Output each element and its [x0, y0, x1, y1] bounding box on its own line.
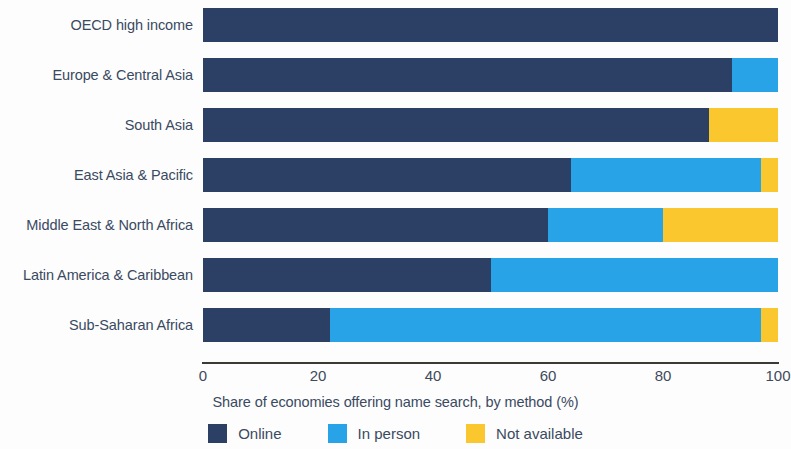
legend-item: In person	[328, 424, 421, 443]
category-axis-labels: OECD high incomeEurope & Central AsiaSou…	[0, 0, 193, 364]
bar-segment-not-available	[709, 108, 778, 142]
x-tick-label: 0	[199, 368, 207, 383]
bar-segment-in-person	[330, 308, 761, 342]
bar-segment-in-person	[571, 158, 761, 192]
legend-swatch	[208, 424, 227, 443]
x-axis-line	[202, 362, 779, 364]
bar-segment-online	[203, 8, 778, 42]
x-tick-label: 40	[425, 368, 442, 383]
x-tick-label: 60	[540, 368, 557, 383]
bar-row	[203, 8, 778, 42]
bar-segment-not-available	[761, 308, 778, 342]
bar-segment-in-person	[491, 258, 779, 292]
category-label: Latin America & Caribbean	[0, 268, 193, 283]
category-label: OECD high income	[0, 18, 193, 33]
x-tick-label: 100	[765, 368, 790, 383]
bar-row	[203, 58, 778, 92]
bar-row	[203, 108, 778, 142]
bar-segment-not-available	[761, 158, 778, 192]
bar-segment-in-person	[732, 58, 778, 92]
category-label: Sub-Saharan Africa	[0, 318, 193, 333]
chart-figure: OECD high incomeEurope & Central AsiaSou…	[0, 0, 791, 449]
category-label: Middle East & North Africa	[0, 218, 193, 233]
bar-row	[203, 208, 778, 242]
bar-segment-online	[203, 58, 732, 92]
plot-area	[203, 0, 778, 364]
bar-segment-online	[203, 208, 548, 242]
bar-segment-not-available	[663, 208, 778, 242]
category-label: South Asia	[0, 118, 193, 133]
bar-segment-online	[203, 158, 571, 192]
bar-row	[203, 258, 778, 292]
bar-row	[203, 158, 778, 192]
x-tick-label: 20	[310, 368, 327, 383]
category-label: Europe & Central Asia	[0, 68, 193, 83]
x-axis-tick-labels: 020406080100	[203, 368, 778, 390]
legend-swatch	[466, 424, 485, 443]
bar-segment-online	[203, 258, 491, 292]
bar-row	[203, 308, 778, 342]
legend-swatch	[328, 424, 347, 443]
legend-item: Online	[208, 424, 281, 443]
chart-legend: OnlineIn personNot available	[0, 424, 791, 443]
legend-label: In person	[358, 426, 421, 441]
bar-segment-online	[203, 308, 330, 342]
legend-label: Online	[238, 426, 281, 441]
x-tick-label: 80	[655, 368, 672, 383]
x-axis-title: Share of economies offering name search,…	[0, 395, 791, 410]
legend-label: Not available	[496, 426, 583, 441]
bar-segment-online	[203, 108, 709, 142]
legend-item: Not available	[466, 424, 583, 443]
bar-segment-in-person	[548, 208, 663, 242]
category-label: East Asia & Pacific	[0, 168, 193, 183]
